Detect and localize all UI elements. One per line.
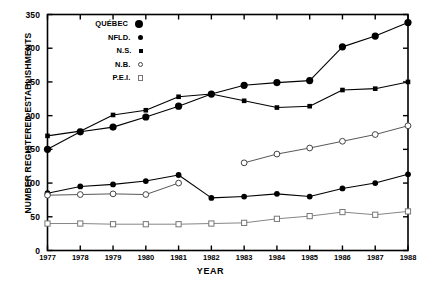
series-line bbox=[48, 131, 81, 136]
series-line bbox=[48, 132, 81, 150]
series-line bbox=[80, 115, 113, 131]
series-line bbox=[211, 85, 244, 94]
data-point bbox=[176, 180, 182, 186]
data-point bbox=[241, 160, 247, 166]
data-point bbox=[340, 209, 345, 214]
series-line bbox=[342, 89, 375, 90]
data-point bbox=[111, 113, 116, 118]
data-point bbox=[78, 129, 83, 134]
data-point bbox=[176, 222, 181, 227]
series-line bbox=[179, 224, 212, 225]
series-line bbox=[48, 195, 81, 196]
series-line bbox=[375, 174, 408, 183]
data-point bbox=[175, 103, 182, 110]
data-point bbox=[340, 138, 346, 144]
series-line bbox=[244, 194, 277, 197]
series-line bbox=[80, 194, 113, 195]
data-point bbox=[405, 209, 410, 214]
data-point bbox=[241, 82, 248, 89]
series-line bbox=[310, 212, 343, 216]
series-line bbox=[375, 82, 408, 89]
data-point bbox=[307, 214, 312, 219]
plot-area bbox=[0, 0, 421, 283]
data-point bbox=[340, 186, 346, 192]
series-line bbox=[113, 181, 146, 184]
data-point bbox=[110, 191, 116, 197]
data-point bbox=[45, 134, 50, 139]
series-line bbox=[244, 101, 277, 108]
data-point bbox=[78, 221, 83, 226]
data-point bbox=[241, 194, 247, 200]
series-line bbox=[146, 175, 179, 181]
series-line bbox=[80, 224, 113, 225]
data-point bbox=[176, 172, 182, 178]
data-point bbox=[307, 194, 313, 200]
data-point bbox=[372, 132, 378, 138]
data-point bbox=[143, 178, 149, 184]
series-line bbox=[113, 117, 146, 127]
series-line bbox=[277, 194, 310, 197]
series-line bbox=[310, 188, 343, 196]
series-line bbox=[48, 186, 81, 193]
data-point bbox=[275, 105, 280, 110]
data-point bbox=[143, 192, 149, 198]
series-line bbox=[277, 216, 310, 219]
data-point bbox=[373, 212, 378, 217]
series-line bbox=[146, 183, 179, 194]
data-point bbox=[209, 221, 214, 226]
data-point bbox=[45, 192, 51, 198]
series-line bbox=[342, 135, 375, 142]
series-line bbox=[375, 211, 408, 214]
data-point bbox=[274, 151, 280, 157]
series-line bbox=[211, 94, 244, 101]
data-point bbox=[242, 220, 247, 225]
series-line bbox=[277, 106, 310, 107]
series-line bbox=[244, 219, 277, 223]
series-line bbox=[375, 126, 408, 135]
data-point bbox=[44, 146, 51, 153]
series-line bbox=[310, 90, 343, 106]
series-line bbox=[310, 47, 343, 81]
series-line bbox=[375, 23, 408, 36]
data-point bbox=[142, 113, 149, 120]
data-point bbox=[208, 195, 214, 201]
series-line bbox=[80, 184, 113, 186]
series-line bbox=[179, 175, 212, 198]
data-point bbox=[339, 43, 346, 50]
data-point bbox=[242, 99, 247, 104]
data-point bbox=[77, 192, 83, 198]
series-line bbox=[244, 83, 277, 86]
series-line bbox=[113, 194, 146, 195]
line-chart: NUMBER REGISTERED ESTABLISHMENTS YEAR 35… bbox=[0, 0, 421, 283]
series-line bbox=[244, 154, 277, 163]
series-line bbox=[277, 148, 310, 154]
data-point bbox=[372, 180, 378, 186]
data-point bbox=[77, 184, 83, 190]
series-line bbox=[342, 36, 375, 47]
series-line bbox=[277, 81, 310, 83]
series-line bbox=[342, 183, 375, 188]
data-point bbox=[110, 182, 116, 188]
data-point bbox=[109, 124, 116, 131]
data-point bbox=[176, 94, 181, 99]
series-line bbox=[310, 141, 343, 148]
series-line bbox=[211, 197, 244, 198]
data-point bbox=[274, 216, 279, 221]
data-point bbox=[372, 32, 379, 39]
data-point bbox=[110, 222, 115, 227]
series-line bbox=[80, 127, 113, 132]
data-point bbox=[340, 88, 345, 93]
series-line bbox=[211, 223, 244, 224]
data-point bbox=[405, 171, 411, 177]
data-point bbox=[405, 123, 411, 129]
data-point bbox=[143, 222, 148, 227]
data-point bbox=[273, 79, 280, 86]
data-point bbox=[45, 221, 50, 226]
data-point bbox=[373, 86, 378, 91]
data-point bbox=[144, 108, 149, 113]
series-line bbox=[342, 212, 375, 215]
series-line bbox=[113, 110, 146, 115]
data-point bbox=[306, 77, 313, 84]
plot-frame bbox=[48, 15, 409, 251]
data-point bbox=[406, 80, 411, 85]
